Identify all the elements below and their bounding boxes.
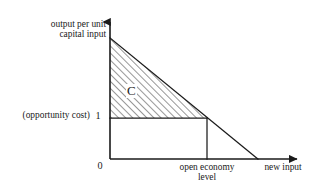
open-economy-level-label: open economylevel	[160, 162, 254, 182]
origin-label: 0	[94, 160, 106, 171]
y-axis-label-line1: output per unit	[51, 19, 106, 29]
y-axis-label: output per unitcapital input	[10, 19, 106, 39]
region-label-c: C	[126, 84, 137, 98]
economics-diagram: output per unitcapital input (opportunit…	[0, 0, 315, 195]
opportunity-cost-label: (opportunity cost)	[4, 110, 90, 120]
open-economy-level-label-line2: level	[198, 172, 216, 182]
y-tick-label-1: 1	[92, 110, 104, 121]
open-economy-level-label-line1: open economy	[180, 162, 235, 172]
y-axis-label-line2: capital input	[59, 29, 106, 39]
x-axis-label: new input	[252, 162, 314, 172]
